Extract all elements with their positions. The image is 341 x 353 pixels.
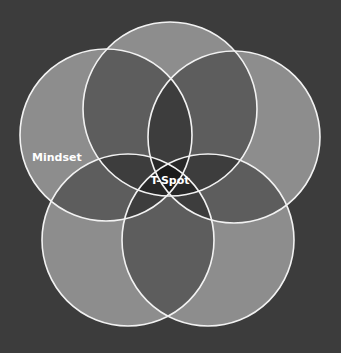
- mindset-label: Mindset: [32, 151, 82, 164]
- t-spot-label: T-Spot: [150, 174, 189, 187]
- venn-svg: Mindset T-Spot: [0, 0, 341, 353]
- circle-lower-right-shade: [122, 154, 294, 326]
- venn-diagram: Mindset T-Spot: [0, 0, 341, 353]
